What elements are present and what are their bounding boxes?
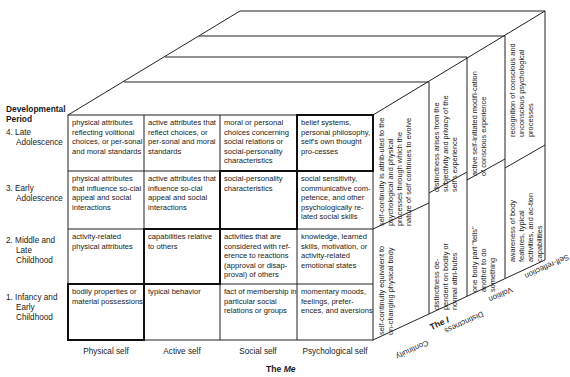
cell-late-adolescence-active: active attributes that reflect choices, … — [144, 115, 220, 171]
cell-early-adolescence-physical: physical attributes that influence so-ci… — [68, 171, 144, 229]
cell-late-adolescence-psychological: belief systems, personal philosophy, sel… — [297, 115, 373, 171]
row-label-infancy-early-childhood: 1. Infancy and Early Childhood — [6, 293, 57, 323]
cell-middle-childhood-active: capabilities relative to others — [144, 229, 220, 284]
row-label-line: 2. Middle and — [6, 236, 55, 245]
cell-early-adolescence-psychological: social sensitivity, communicative com-pe… — [297, 171, 373, 229]
column-label-psychological-self: Psychological self — [297, 347, 373, 356]
i-cell-selfreflection-lower: awareness of body features, typical acti… — [508, 182, 544, 262]
column-label-active-self: Active self — [144, 347, 220, 356]
me-axis-title: The Me — [266, 364, 296, 374]
i-cell-continuity-upper: self-continuity is attrib-uted to the ps… — [377, 116, 413, 226]
cell-early-adolescence-active: active attributes that influence so-cial… — [144, 171, 220, 229]
i-cell-volition-upper: active self-initiated modifi-cation of c… — [470, 66, 488, 176]
i-cell-selfreflection-upper: recognition of conscious and unconscious… — [508, 37, 535, 137]
row-axis-title: Developmental Period — [6, 104, 66, 124]
row-label-line: Adolescence — [6, 138, 63, 148]
i-cell-distinctness-lower: distinctness de-pendent on bodily or nor… — [432, 238, 459, 310]
row-label-line: 3. Early — [6, 184, 34, 193]
row-label-late-adolescence: 4. Late Adolescence — [6, 128, 63, 148]
row-label-line: 4. Late — [6, 128, 31, 137]
cell-middle-childhood-physical: activity-related physical attributes — [68, 229, 144, 284]
cell-late-adolescence-social: moral or personal choices concerning soc… — [220, 115, 297, 171]
cell-middle-childhood-social: activities that are considered with ref-… — [220, 229, 297, 284]
i-cell-volition-lower: one body part "tells" another to do some… — [470, 222, 497, 292]
cell-infancy-physical: bodily properties or material possession… — [68, 284, 144, 340]
cell-early-adolescence-social: social-personality characteristics — [220, 171, 297, 229]
column-label-social-self: Social self — [220, 347, 296, 356]
i-cell-continuity-lower: self-continuity equivalent to un-changin… — [377, 240, 395, 335]
row-label-line: Early — [6, 303, 57, 313]
row-label-line: Late — [6, 246, 55, 256]
row-label-middle-late-childhood: 2. Middle and Late Childhood — [6, 236, 55, 266]
cell-infancy-active: typical behavior — [144, 284, 220, 340]
row-label-line: 1. Infancy and — [6, 293, 57, 302]
me-title-prefix: The — [266, 364, 281, 374]
cell-infancy-psychological: momentary moods, feelings, prefer-ences,… — [297, 284, 373, 340]
cell-late-adolescence-physical: physical attributes reflecting volitiona… — [68, 115, 144, 171]
row-label-early-adolescence: 3. Early Adolescence — [6, 184, 63, 204]
cell-infancy-social: fact of membership in particular social … — [220, 284, 297, 340]
me-title-word: Me — [284, 364, 296, 374]
row-label-line: Adolescence — [6, 194, 63, 204]
row-label-line: Childhood — [6, 313, 57, 323]
cell-middle-childhood-psychological: knowledge, learned skills, motivation, o… — [297, 229, 373, 284]
i-cell-distinctness-upper: distinctness arises from the subjectivit… — [432, 84, 459, 192]
column-label-physical-self: Physical self — [68, 347, 144, 356]
row-label-line: Childhood — [6, 256, 55, 266]
